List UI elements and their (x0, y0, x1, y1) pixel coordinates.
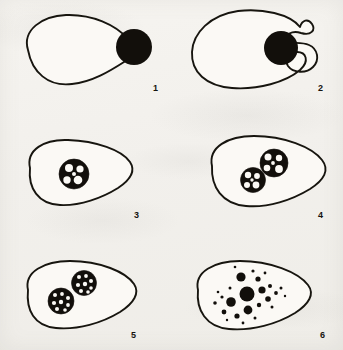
digested-granule (226, 297, 236, 307)
digested-granule (244, 306, 253, 315)
phagocytosis-figure: 1 2 3 4 5 (0, 0, 343, 350)
digested-granule (268, 284, 272, 288)
digested-granule (258, 286, 265, 293)
digested-granule (265, 296, 271, 302)
digested-granule (240, 287, 255, 302)
digested-granule (264, 272, 267, 275)
digested-granule (255, 276, 260, 281)
digested-granule (234, 266, 237, 269)
panel-6-drawing (0, 0, 343, 350)
digested-granule (234, 313, 239, 318)
digested-granule (222, 310, 227, 315)
digested-granule (274, 291, 278, 295)
digested-granule (251, 269, 254, 272)
digested-granule (236, 272, 245, 281)
digested-granule (284, 295, 286, 297)
digested-granule (280, 287, 283, 290)
digested-granule (226, 319, 228, 321)
digested-granule (271, 306, 274, 309)
panel-label-6: 6 (320, 331, 325, 340)
digested-granule (242, 322, 245, 325)
digested-granule (217, 291, 220, 294)
digested-granule (254, 317, 257, 320)
digested-granule (220, 295, 223, 298)
digested-granule (213, 301, 217, 305)
digested-granule (257, 303, 261, 307)
digested-granule (229, 287, 232, 290)
